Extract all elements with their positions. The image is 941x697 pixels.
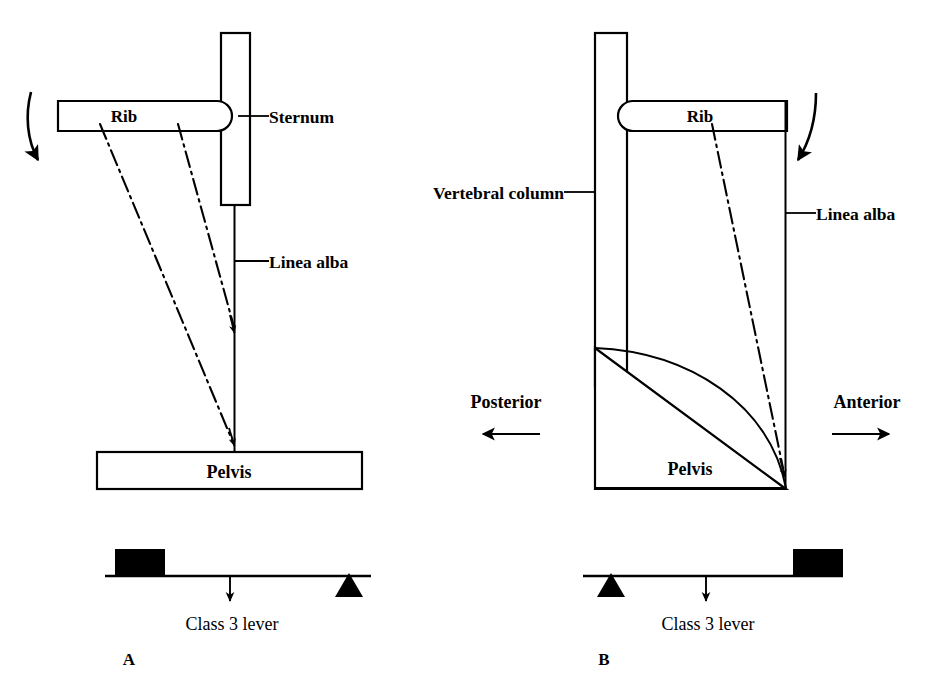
posterior-label: Posterior	[471, 392, 542, 412]
lever-diagram-a: Class 3 lever	[105, 549, 371, 634]
panel-b: Pelvis Rib Vertebral column Linea alba P…	[433, 33, 901, 669]
figure-root: Pelvis Rib Sternum Linea alba Class 3 le…	[0, 0, 941, 697]
lever-label-b: Class 3 lever	[662, 614, 755, 634]
lever-label-a: Class 3 lever	[186, 614, 279, 634]
vertebral-column-label: Vertebral column	[433, 183, 564, 203]
panel-a: Pelvis Rib Sternum Linea alba Class 3 le…	[28, 33, 371, 669]
muscle-line-b-1	[712, 124, 783, 468]
pelvis-label-a: Pelvis	[207, 462, 252, 482]
anterior-indicator: Anterior	[832, 392, 900, 434]
linea-alba-label-a: Linea alba	[269, 252, 349, 272]
panel-letter-a: A	[123, 650, 136, 669]
rib-shape-a	[58, 101, 232, 131]
rotation-arrow-icon-b	[798, 93, 816, 160]
lever-effort-block-b	[793, 549, 843, 576]
panel-letter-b: B	[598, 650, 609, 669]
linea-alba-label-b: Linea alba	[816, 204, 896, 224]
rib-label-b: Rib	[687, 107, 713, 126]
lever-diagram-b: Class 3 lever	[583, 549, 843, 634]
posterior-indicator: Posterior	[471, 392, 542, 434]
muscle-line-a-1	[100, 124, 232, 440]
anterior-label: Anterior	[834, 392, 901, 412]
pelvis-label-b: Pelvis	[668, 459, 713, 479]
rotation-arrow-icon-a	[28, 92, 38, 160]
anatomical-diagram-canvas: Pelvis Rib Sternum Linea alba Class 3 le…	[0, 0, 941, 697]
vertebral-column-shape	[595, 33, 627, 386]
rib-label-a: Rib	[111, 107, 137, 126]
sternum-label: Sternum	[269, 107, 335, 127]
lever-effort-block-a	[115, 549, 165, 576]
